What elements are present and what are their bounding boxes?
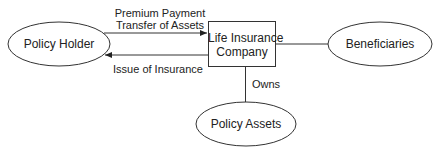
owns-label: Owns bbox=[252, 78, 280, 91]
policy-holder-label: Policy Holder bbox=[8, 38, 110, 51]
company-label-line2: Company bbox=[208, 46, 276, 59]
premium-label-line2: Transfer of Assets bbox=[110, 19, 210, 32]
issue-label: Issue of Insurance bbox=[110, 63, 206, 76]
beneficiaries-label: Beneficiaries bbox=[328, 38, 432, 51]
company-label-line1: Life Insurance bbox=[208, 32, 276, 45]
policy-assets-label: Policy Assets bbox=[196, 118, 296, 131]
